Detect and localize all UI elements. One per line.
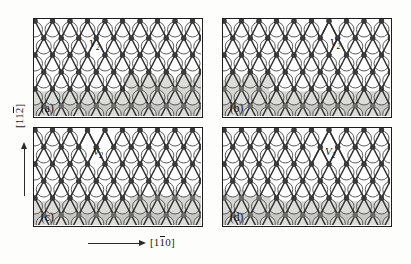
panel-b-lattice: [223, 19, 390, 116]
panel-d-lattice: [223, 128, 390, 225]
horizontal-axis-arrow-icon: [88, 243, 140, 244]
panel-d-letter: (d): [230, 211, 243, 223]
panel-b-defect-label: V2: [330, 36, 340, 51]
horizontal-axis-label: [110]: [150, 236, 175, 248]
panel-c: (c) V2: [33, 127, 203, 227]
panel-a-lattice: [34, 19, 201, 116]
panel-c-lattice: [34, 128, 201, 225]
vertical-axis-label: [112]: [13, 104, 25, 128]
figure-root: [112] [110] (a) V2 (b) V2 (c) V2 (d) V2: [0, 0, 411, 264]
panel-d-defect-label: V2: [325, 145, 335, 160]
panel-c-defect-label: V2: [93, 145, 103, 160]
panel-b: (b) V2: [222, 18, 392, 118]
panel-c-letter: (c): [41, 211, 54, 223]
panel-b-letter: (b): [230, 102, 243, 114]
panel-a-letter: (a): [41, 102, 54, 114]
panel-a-defect-label: V2: [89, 37, 99, 52]
panel-d: (d) V2: [222, 127, 392, 227]
vertical-axis-arrow-icon: [24, 148, 25, 196]
panel-a: (a) V2: [33, 18, 203, 118]
